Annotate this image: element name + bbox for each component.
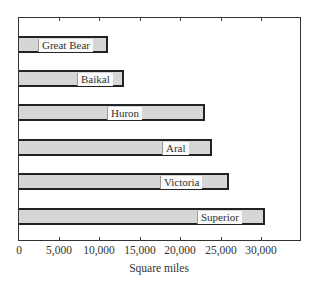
bar-label: Great Bear xyxy=(38,39,93,52)
bar-label: Superior xyxy=(197,211,242,224)
top-tick-15000 xyxy=(140,17,141,21)
x-tick-label: 0 xyxy=(16,244,22,256)
bar-superior: Superior xyxy=(19,208,265,225)
x-tick-label: 20,000 xyxy=(164,244,196,256)
bottom-tick-5000 xyxy=(59,237,60,241)
bottom-tick-15000 xyxy=(140,237,141,241)
bar-label: Baikal xyxy=(77,73,113,86)
bar-label: Huron xyxy=(107,107,142,120)
x-tick-label: 30,000 xyxy=(245,244,277,256)
bottom-tick-30000 xyxy=(261,237,262,241)
x-tick-label: 25,000 xyxy=(205,244,237,256)
bottom-tick-20000 xyxy=(180,237,181,241)
bar-aral: Aral xyxy=(19,139,212,156)
bar-baikal: Baikal xyxy=(19,70,124,87)
x-tick-label: 5,000 xyxy=(46,244,72,256)
bar-label: Aral xyxy=(162,142,189,155)
bar-victoria: Victoria xyxy=(19,173,229,190)
x-tick-label: 10,000 xyxy=(83,244,115,256)
bar-great-bear: Great Bear xyxy=(19,36,108,53)
top-tick-25000 xyxy=(221,17,222,21)
bar-huron: Huron xyxy=(19,104,205,121)
top-tick-5000 xyxy=(59,17,60,21)
top-tick-10000 xyxy=(99,17,100,21)
x-tick-label: 15,000 xyxy=(124,244,156,256)
x-axis-title: Square miles xyxy=(129,262,189,274)
top-tick-30000 xyxy=(261,17,262,21)
bar-label: Victoria xyxy=(160,176,202,189)
bottom-tick-25000 xyxy=(221,237,222,241)
top-tick-20000 xyxy=(180,17,181,21)
bottom-tick-10000 xyxy=(99,237,100,241)
